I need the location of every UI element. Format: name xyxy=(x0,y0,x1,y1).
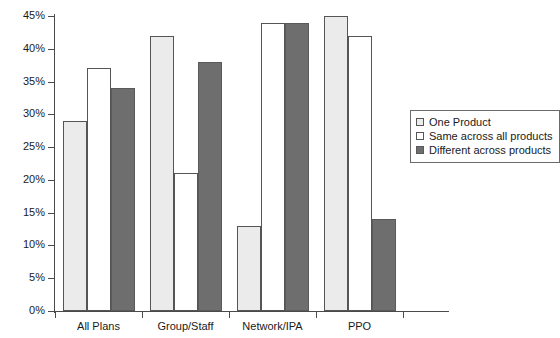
bar xyxy=(285,23,309,311)
bar xyxy=(87,68,111,311)
y-axis-tick xyxy=(48,82,55,83)
y-axis-label: 15% xyxy=(1,207,45,218)
y-axis-tick xyxy=(48,16,55,17)
y-axis-label: 25% xyxy=(1,141,45,152)
x-axis-separator xyxy=(229,311,230,318)
x-axis-separator xyxy=(142,311,143,318)
legend-swatch-icon xyxy=(416,132,424,140)
bar xyxy=(63,121,87,311)
y-axis-label-wrap: 30% xyxy=(0,114,45,115)
y-axis-label: 40% xyxy=(1,43,45,54)
x-axis-separator xyxy=(55,311,56,318)
legend-swatch-icon xyxy=(416,118,424,126)
y-axis-tick xyxy=(48,311,55,312)
y-axis-label: 5% xyxy=(1,272,45,283)
x-axis-separator xyxy=(403,311,404,318)
legend-item: One Product xyxy=(416,115,553,129)
y-axis-tick xyxy=(48,180,55,181)
bar xyxy=(261,23,285,311)
y-axis-label-wrap: 15% xyxy=(0,213,45,214)
bar xyxy=(174,173,198,311)
bar xyxy=(324,16,348,311)
y-axis-tick xyxy=(48,245,55,246)
x-axis-label: Group/Staff xyxy=(142,320,229,333)
x-axis-line xyxy=(54,311,449,312)
legend-item: Same across all products xyxy=(416,129,553,143)
y-axis-label-wrap: 35% xyxy=(0,82,45,83)
bar xyxy=(237,226,261,311)
legend-label: One Product xyxy=(429,116,491,128)
bar xyxy=(111,88,135,311)
y-axis-label-wrap: 10% xyxy=(0,245,45,246)
y-axis-label: 20% xyxy=(1,174,45,185)
y-axis-label: 45% xyxy=(1,10,45,21)
x-axis-separator xyxy=(316,311,317,318)
bar xyxy=(348,36,372,311)
legend-label: Different across products xyxy=(429,144,551,156)
chart-legend: One ProductSame across all productsDiffe… xyxy=(410,110,560,163)
y-axis-tick xyxy=(48,147,55,148)
x-axis-label: All Plans xyxy=(55,320,142,333)
x-axis-label: Network/IPA xyxy=(229,320,316,333)
y-axis-label: 30% xyxy=(1,108,45,119)
bar xyxy=(198,62,222,311)
y-axis-tick xyxy=(48,213,55,214)
x-axis-label: PPO xyxy=(316,320,403,333)
y-axis-tick xyxy=(48,278,55,279)
y-axis-label: 10% xyxy=(1,239,45,250)
y-axis-label-wrap: 40% xyxy=(0,49,45,50)
bar xyxy=(372,219,396,311)
bar xyxy=(150,36,174,311)
y-axis-label-wrap: 0% xyxy=(0,311,45,312)
y-axis-label: 35% xyxy=(1,76,45,87)
legend-swatch-icon xyxy=(416,146,424,154)
plot-area xyxy=(55,16,403,311)
y-axis-label-wrap: 45% xyxy=(0,16,45,17)
y-axis-label-wrap: 5% xyxy=(0,278,45,279)
y-axis-tick xyxy=(48,114,55,115)
y-axis-tick xyxy=(48,49,55,50)
y-axis-label-wrap: 25% xyxy=(0,147,45,148)
y-axis-label: 0% xyxy=(1,305,45,316)
legend-label: Same across all products xyxy=(429,130,553,142)
y-axis-label-wrap: 20% xyxy=(0,180,45,181)
legend-item: Different across products xyxy=(416,143,553,157)
